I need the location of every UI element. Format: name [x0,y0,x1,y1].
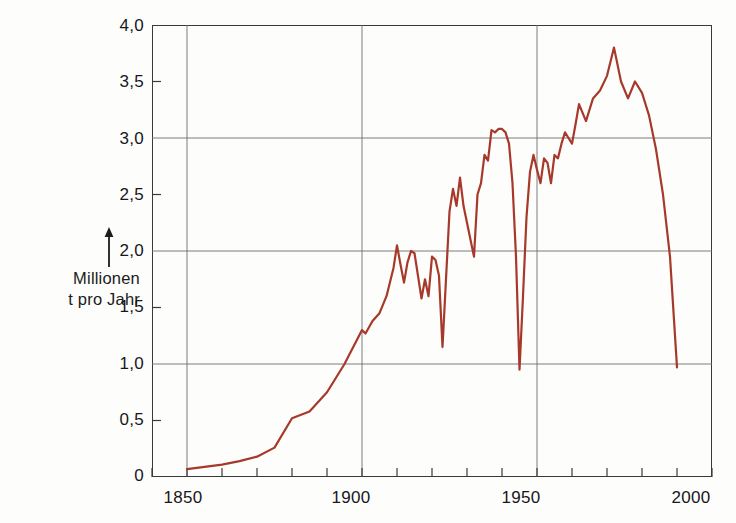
y-axis-tick-labels: 4,0 3,5 3,0 2,5 2,0 1,5 1,0 0,5 0 [96,25,144,477]
x-tick-label: 1950 [486,489,556,506]
data-series-line [152,25,712,477]
x-axis-tick-labels: 1850 1900 1950 2000 [152,489,736,513]
x-tick-label: 2000 [656,489,726,506]
y-tick-label: 1,0 [98,355,144,372]
y-tick-label: 3,5 [98,73,144,90]
y-tick-label: 2,5 [98,186,144,203]
y-tick-label: 3,0 [98,130,144,147]
x-tick-label: 1900 [316,489,386,506]
plot-area [152,25,712,477]
x-tick-label: 1850 [148,489,218,506]
chart-figure: Millionen t pro Jahr 4,0 3,5 3,0 2,5 2,0… [0,0,736,523]
y-tick-label: 4,0 [98,17,144,34]
y-tick-label: 0 [98,467,144,484]
y-tick-label: 2,0 [98,242,144,259]
series-path-millionen-t-pro-jahr [187,48,677,469]
y-tick-label: 1,5 [98,298,144,315]
y-tick-label: 0,5 [98,411,144,428]
